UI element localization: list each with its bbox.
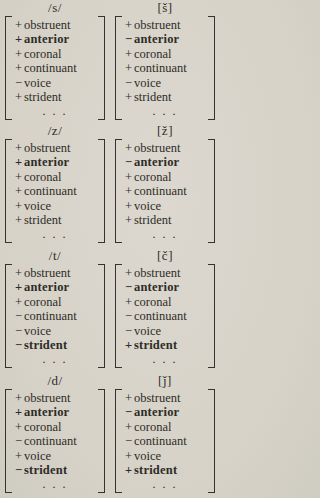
feature-row: −voice xyxy=(125,76,205,90)
feature-sign: + xyxy=(15,61,24,75)
feature-name: coronal xyxy=(134,47,171,61)
matrix-content: +obstruent +anterior +coronal +continuan… xyxy=(12,16,98,120)
feature-name: obstruent xyxy=(134,391,181,405)
feature-sign: − xyxy=(15,324,24,338)
feature-sign: − xyxy=(125,434,134,448)
feature-row: +obstruent xyxy=(15,18,95,32)
feature-sign: − xyxy=(15,76,24,90)
feature-row: +coronal xyxy=(15,47,95,61)
feature-row: +coronal xyxy=(15,295,95,309)
ellipsis: . . . xyxy=(15,477,95,491)
feature-name: anterior xyxy=(134,32,179,46)
matrix-cell: /t/ +obstruent +anterior +coronal −conti… xyxy=(3,248,107,373)
feature-name: strident xyxy=(24,213,62,227)
feature-name: continuant xyxy=(24,184,77,198)
matrix-cell: [ž] +obstruent −anterior +coronal +conti… xyxy=(113,123,217,248)
feature-sign: + xyxy=(125,170,134,184)
feature-row: +voice xyxy=(15,449,95,463)
feature-row: +strident xyxy=(125,213,205,227)
right-bracket xyxy=(98,389,105,493)
ellipsis: . . . xyxy=(125,227,205,241)
feature-row: +anterior xyxy=(15,32,95,46)
feature-sign: + xyxy=(15,18,24,32)
feature-row: +voice xyxy=(125,449,205,463)
feature-sign: + xyxy=(15,213,24,227)
feature-sign: + xyxy=(15,199,24,213)
left-bracket xyxy=(115,264,122,368)
feature-sign: − xyxy=(125,76,134,90)
feature-row: +obstruent xyxy=(15,141,95,155)
feature-row: +voice xyxy=(15,199,95,213)
left-bracket xyxy=(5,389,12,493)
feature-name: obstruent xyxy=(134,141,181,155)
ellipsis: . . . xyxy=(125,104,205,118)
feature-row: +strident xyxy=(125,90,205,104)
feature-row: +obstruent xyxy=(125,391,205,405)
feature-sign: + xyxy=(125,61,134,75)
ellipsis: . . . xyxy=(125,477,205,491)
feature-matrix: +obstruent +anterior +coronal +continuan… xyxy=(5,16,105,120)
feature-matrix: +obstruent −anterior +coronal −continuan… xyxy=(115,389,215,493)
feature-sign: + xyxy=(15,449,24,463)
phoneme-label: [č] xyxy=(157,248,173,264)
feature-matrix: +obstruent −anterior +coronal +continuan… xyxy=(115,139,215,243)
feature-sign: + xyxy=(125,449,134,463)
feature-name: coronal xyxy=(24,47,61,61)
feature-row: +coronal xyxy=(15,170,95,184)
matrix-content: +obstruent −anterior +coronal −continuan… xyxy=(122,264,208,368)
feature-row: +obstruent xyxy=(15,266,95,280)
matrix-content: +obstruent −anterior +coronal +continuan… xyxy=(122,16,208,120)
feature-name: anterior xyxy=(24,155,69,169)
feature-sign: + xyxy=(15,90,24,104)
feature-name: obstruent xyxy=(134,18,181,32)
matrix-cell: [ǰ] +obstruent −anterior +coronal −conti… xyxy=(113,373,217,498)
left-bracket xyxy=(5,139,12,243)
matrix-cell: [č] +obstruent −anterior +coronal −conti… xyxy=(113,248,217,373)
feature-row: +anterior xyxy=(15,280,95,294)
feature-name: coronal xyxy=(134,295,171,309)
feature-name: strident xyxy=(24,338,67,352)
phoneme-label: /t/ xyxy=(49,248,61,264)
matrix-cell: [š] +obstruent −anterior +coronal +conti… xyxy=(113,0,217,123)
feature-sign: + xyxy=(15,170,24,184)
feature-sign: − xyxy=(125,309,134,323)
feature-name: continuant xyxy=(134,61,187,75)
feature-name: voice xyxy=(24,324,51,338)
feature-sign: + xyxy=(125,184,134,198)
right-bracket xyxy=(208,16,215,120)
feature-row: +coronal xyxy=(15,420,95,434)
right-bracket xyxy=(208,264,215,368)
phoneme-label: [ž] xyxy=(157,123,173,139)
feature-row: +obstruent xyxy=(125,266,205,280)
phoneme-label: [š] xyxy=(157,0,172,16)
feature-row: +coronal xyxy=(125,420,205,434)
feature-row: +continuant xyxy=(125,184,205,198)
feature-matrix: +obstruent −anterior +coronal +continuan… xyxy=(115,16,215,120)
feature-sign: + xyxy=(15,295,24,309)
left-bracket xyxy=(115,389,122,493)
feature-name: strident xyxy=(24,90,62,104)
feature-sign: − xyxy=(15,463,24,477)
matrix-content: +obstruent −anterior +coronal +continuan… xyxy=(122,139,208,243)
feature-matrix-grid: /s/ +obstruent +anterior +coronal +conti… xyxy=(0,0,220,498)
feature-name: coronal xyxy=(24,295,61,309)
feature-name: voice xyxy=(134,324,161,338)
phoneme-label: [ǰ] xyxy=(158,373,172,389)
right-bracket xyxy=(208,139,215,243)
feature-row: −strident xyxy=(15,338,95,352)
left-bracket xyxy=(115,139,122,243)
feature-name: coronal xyxy=(24,170,61,184)
feature-name: continuant xyxy=(134,184,187,198)
ellipsis: . . . xyxy=(15,227,95,241)
feature-row: +coronal xyxy=(125,47,205,61)
feature-name: coronal xyxy=(134,170,171,184)
phoneme-label: /s/ xyxy=(48,0,62,16)
feature-name: continuant xyxy=(24,309,77,323)
feature-row: +anterior xyxy=(15,405,95,419)
feature-sign: − xyxy=(15,338,24,352)
feature-row: −anterior xyxy=(125,280,205,294)
feature-sign: − xyxy=(15,309,24,323)
feature-sign: + xyxy=(15,405,24,419)
feature-sign: − xyxy=(15,434,24,448)
feature-sign: + xyxy=(125,391,134,405)
